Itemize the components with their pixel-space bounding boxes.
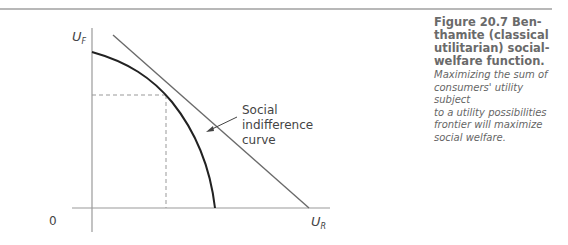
caption-body: Maximizing the sum of consumers' utility… — [434, 69, 562, 144]
y-axis-label: UF — [72, 29, 87, 46]
utility-possibilities-frontier — [92, 52, 215, 208]
arrowhead-icon — [206, 126, 214, 132]
annotation-line-1: Social — [242, 103, 278, 117]
chart: Social indifference curve UF UR 0 — [0, 0, 430, 245]
origin-label: 0 — [49, 214, 57, 228]
annotation-line-3: curve — [242, 133, 276, 147]
caption-title: Figure 20.7 Ben- thamite (classical util… — [434, 16, 562, 68]
caption-body-line: to a utility possibilities — [434, 107, 562, 120]
annotation-line-2: indifference — [242, 118, 313, 132]
caption-body-line: Maximizing the sum of — [434, 69, 562, 82]
caption-body-line: consumers' utility subject — [434, 82, 562, 107]
figure-caption: Figure 20.7 Ben- thamite (classical util… — [434, 16, 562, 144]
caption-body-line: frontier will maximize — [434, 119, 562, 132]
caption-title-line: welfare function. — [434, 55, 562, 68]
caption-body-line: social welfare. — [434, 132, 562, 145]
x-axis-label: UR — [311, 214, 326, 231]
